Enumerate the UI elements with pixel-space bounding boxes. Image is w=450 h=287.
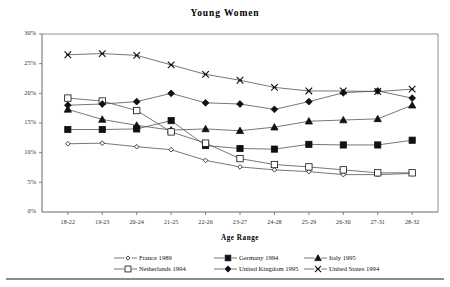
data-point-marker: [168, 129, 174, 135]
line-chart: 0%5%10%15%20%25%30% 18-2219-2320-2421-25…: [0, 0, 450, 287]
legend-label: United States 1994: [329, 265, 380, 272]
data-point-marker: [315, 255, 322, 261]
data-point-marker: [133, 98, 140, 105]
y-tick-label: 0%: [27, 207, 36, 214]
chart-legend: France 1989Germany 1994Italy 1995Netherl…: [114, 254, 380, 273]
data-point-marker: [271, 106, 278, 113]
data-point-marker: [168, 118, 174, 124]
data-point-marker: [202, 125, 209, 131]
data-point-marker: [409, 95, 416, 102]
data-point-marker: [271, 146, 277, 152]
x-tick-label: 22-26: [198, 218, 212, 225]
data-point-marker: [125, 266, 131, 272]
x-tick-label: 25-29: [302, 218, 316, 225]
x-tick-label: 26-30: [336, 218, 350, 225]
x-axis: 18-2219-2320-2421-2522-2623-2724-2825-29…: [42, 212, 438, 225]
data-point-marker: [126, 256, 130, 260]
data-point-marker: [134, 144, 139, 149]
legend-label: Germany 1994: [239, 254, 279, 261]
data-point-marker: [64, 102, 71, 109]
legend-label: France 1989: [139, 254, 172, 261]
data-point-marker: [374, 115, 381, 121]
data-point-marker: [305, 98, 312, 105]
data-point-marker: [65, 95, 71, 101]
data-point-marker: [203, 158, 208, 163]
x-tick-label: 28-32: [405, 218, 419, 225]
data-point-marker: [202, 99, 209, 106]
data-point-marker: [340, 142, 346, 148]
data-point-marker: [169, 147, 174, 152]
data-point-marker: [375, 170, 381, 176]
y-tick-label: 30%: [24, 29, 36, 36]
x-axis-title-label: Age Range: [221, 234, 259, 242]
data-point-marker: [202, 140, 208, 146]
x-tick-label: 24-28: [267, 218, 281, 225]
data-point-marker: [306, 141, 312, 147]
data-point-marker: [237, 145, 243, 151]
data-point-marker: [225, 266, 231, 272]
x-tick-label: 23-27: [233, 218, 247, 225]
legend-label: Netherlands 1994: [139, 265, 186, 272]
legend-item: Italy 1995: [304, 254, 357, 261]
x-tick-label: 20-24: [129, 218, 143, 225]
legend-item: United Kingdom 1995: [214, 265, 299, 273]
data-point-marker: [99, 126, 105, 132]
data-point-marker: [225, 255, 231, 261]
series-layer: [64, 50, 416, 177]
data-point-marker: [237, 101, 244, 108]
legend-label: United Kingdom 1995: [239, 265, 299, 272]
x-tick-label: 21-25: [164, 218, 178, 225]
data-point-marker: [315, 266, 321, 272]
y-axis: 0%5%10%15%20%25%30%: [24, 29, 42, 214]
data-point-marker: [340, 167, 346, 173]
plot-frame: [42, 34, 438, 212]
y-tick-label: 15%: [24, 118, 36, 125]
data-point-marker: [65, 126, 71, 132]
data-point-marker: [409, 170, 415, 176]
data-point-marker: [66, 141, 71, 146]
data-point-marker: [168, 62, 175, 69]
data-point-marker: [375, 142, 381, 148]
data-point-marker: [168, 90, 175, 97]
legend-item: United States 1994: [304, 265, 380, 273]
legend-item: Netherlands 1994: [114, 265, 186, 272]
data-point-marker: [409, 102, 416, 108]
y-tick-label: 10%: [24, 148, 36, 155]
data-point-marker: [100, 141, 105, 146]
data-point-marker: [133, 107, 139, 113]
x-axis-title: Age Range: [221, 234, 259, 242]
y-tick-label: 5%: [27, 178, 36, 185]
chart-figure: Young Women 0%5%10%15%20%25%30% 18-2219-…: [0, 0, 450, 287]
data-point-marker: [306, 164, 312, 170]
data-point-marker: [237, 77, 244, 84]
data-point-marker: [202, 71, 209, 78]
x-tick-label: 19-23: [95, 218, 109, 225]
y-tick-label: 25%: [24, 59, 36, 66]
legend-item: France 1989: [114, 254, 172, 261]
data-point-marker: [409, 137, 415, 143]
data-point-marker: [271, 161, 277, 167]
series-united-states-1994: [65, 50, 416, 95]
x-tick-label: 27-31: [371, 218, 385, 225]
legend-item: Germany 1994: [214, 254, 279, 261]
data-point-marker: [237, 155, 243, 161]
data-point-marker: [238, 165, 243, 170]
series-germany-1994: [65, 118, 416, 153]
x-tick-label: 18-22: [61, 218, 75, 225]
y-tick-label: 20%: [24, 89, 36, 96]
data-point-marker: [272, 168, 277, 173]
legend-label: Italy 1995: [329, 254, 357, 261]
